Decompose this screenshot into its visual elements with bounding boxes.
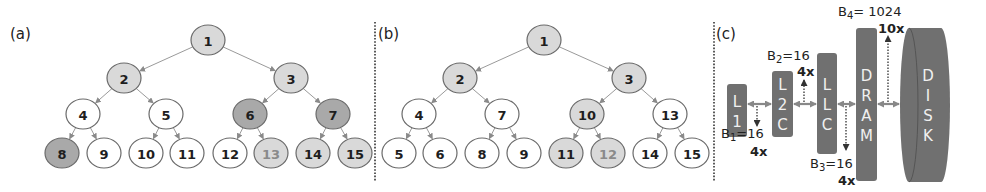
disk-cylinder xyxy=(900,28,950,182)
tree-node-5: 5 xyxy=(149,99,183,129)
tree-edge xyxy=(406,128,412,139)
tree-edge xyxy=(559,47,613,71)
node-label: 3 xyxy=(624,72,633,87)
bandwidth-label: B2=16 xyxy=(767,48,810,65)
tree-edge xyxy=(426,128,432,139)
tree-node-1: 1 xyxy=(527,25,561,55)
label-base: B xyxy=(838,4,847,19)
cache-box-l2c-letter: L xyxy=(778,76,787,94)
disk-letter: K xyxy=(923,127,934,145)
tree-edge xyxy=(510,127,516,138)
tree-edge xyxy=(320,128,326,139)
label-value: =16 xyxy=(736,126,763,141)
tree-node-15: 15 xyxy=(338,138,372,168)
node-label: 2 xyxy=(455,72,464,87)
cache-box-l2c-letter: C xyxy=(777,116,787,134)
label-value: =16 xyxy=(825,156,852,171)
tree-node-12: 12 xyxy=(213,138,247,168)
tree-edge xyxy=(136,88,153,102)
node-label: 11 xyxy=(178,147,196,162)
tree-edge xyxy=(594,128,600,139)
tree-edge xyxy=(96,89,112,103)
cache-box-dram xyxy=(856,28,877,181)
tree-edge xyxy=(153,128,159,139)
diagram-canvas: (a)123456789101112131415(b)1234710135689… xyxy=(0,0,986,192)
tree-edge xyxy=(472,88,489,102)
cache-box-l2c-letter: 2 xyxy=(778,96,788,114)
tree-node-5: 5 xyxy=(382,138,416,168)
speed-factor: 4x xyxy=(750,144,768,159)
node-label: 9 xyxy=(99,147,108,162)
node-label: 7 xyxy=(328,108,337,123)
disk-letter: D xyxy=(922,67,934,85)
panel-label: (b) xyxy=(378,25,399,43)
diagram-svg: (a)123456789101112131415(b)1234710135689… xyxy=(0,0,986,192)
bandwidth-label: B4= 1024 xyxy=(838,4,901,21)
label-base: B xyxy=(767,48,776,63)
node-label: 13 xyxy=(262,147,280,162)
tree-edge xyxy=(263,89,279,103)
tree-edge xyxy=(678,127,684,138)
memory-hierarchy-panel: (c)L1L2CLLCDRAMDISKB1=164xB2=164xB3=164x… xyxy=(716,4,950,188)
node-label: 7 xyxy=(497,108,506,123)
tree-panel-a: (a)123456789101112131415 xyxy=(10,25,372,168)
node-label: 4 xyxy=(414,108,423,123)
panel-label: (c) xyxy=(716,25,736,43)
tree-node-2: 2 xyxy=(107,63,141,93)
tree-node-3: 3 xyxy=(274,63,308,93)
tree-node-4: 4 xyxy=(402,99,436,129)
tree-edge xyxy=(657,128,663,139)
node-label: 11 xyxy=(557,147,575,162)
tree-panel-b: (b)123471013568911121415 xyxy=(378,25,709,168)
tree-edge xyxy=(90,128,96,139)
tree-node-8: 8 xyxy=(465,138,499,168)
tree-node-10: 10 xyxy=(570,99,604,129)
disk-letter: I xyxy=(926,87,930,105)
tree-node-7: 7 xyxy=(485,99,519,129)
tree-panels: (a)123456789101112131415(b)1234710135689… xyxy=(10,25,709,168)
label-base: B xyxy=(721,126,730,141)
tree-node-1: 1 xyxy=(191,25,225,55)
tree-edge xyxy=(70,128,76,139)
node-label: 2 xyxy=(119,72,128,87)
node-label: 8 xyxy=(57,147,66,162)
label-value: =16 xyxy=(782,48,809,63)
cache-box-dram-letter: R xyxy=(861,87,871,105)
tree-node-9: 9 xyxy=(87,138,121,168)
disk-letter: S xyxy=(923,107,933,125)
tree-node-14: 14 xyxy=(296,138,330,168)
node-label: 12 xyxy=(599,147,617,162)
tree-node-7: 7 xyxy=(316,99,350,129)
cache-box-dram-letter: M xyxy=(860,127,873,145)
disk-body xyxy=(900,28,950,182)
node-label: 14 xyxy=(304,147,322,162)
bandwidth-label: B1=16 xyxy=(721,126,764,143)
label-base: B xyxy=(810,156,819,171)
tree-node-6: 6 xyxy=(233,99,267,129)
tree-edge xyxy=(140,47,193,71)
tree-node-13: 13 xyxy=(254,138,288,168)
node-label: 10 xyxy=(578,108,596,123)
cache-box-llc-letter: L xyxy=(823,76,832,94)
node-label: 1 xyxy=(539,34,548,49)
node-label: 1 xyxy=(203,34,212,49)
tree-edge xyxy=(257,128,263,139)
tree-edge xyxy=(600,88,617,102)
node-label: 15 xyxy=(683,147,701,162)
tree-node-12: 12 xyxy=(591,138,625,168)
tree-node-2: 2 xyxy=(443,63,477,93)
tree-node-4: 4 xyxy=(66,99,100,129)
tree-edge xyxy=(489,128,495,139)
node-label: 12 xyxy=(221,147,239,162)
tree-edge xyxy=(476,47,529,71)
tree-edge xyxy=(341,127,347,138)
tree-edge xyxy=(303,88,320,102)
node-label: 9 xyxy=(519,147,528,162)
tree-node-6: 6 xyxy=(423,138,457,168)
tree-edge xyxy=(432,89,448,103)
node-label: 14 xyxy=(641,147,659,162)
node-label: 10 xyxy=(137,147,155,162)
cache-box-dram-letter: A xyxy=(861,107,872,125)
tree-node-10: 10 xyxy=(129,138,163,168)
node-label: 4 xyxy=(78,108,87,123)
